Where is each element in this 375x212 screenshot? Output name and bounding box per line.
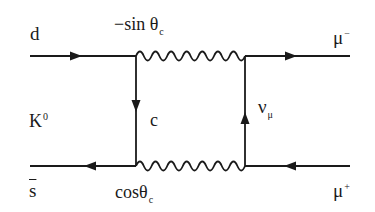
arrow-right-icon: [70, 52, 82, 61]
charm-text: c: [150, 110, 158, 130]
top-coupling-subscript: c: [159, 26, 163, 37]
label-kaon: K0: [29, 112, 48, 130]
label-neutrino: νμ: [258, 97, 273, 120]
bottom-coupling-text: cosθ: [115, 182, 148, 202]
label-bottom-coupling: cosθc: [115, 183, 153, 205]
mu-plus-text: μ: [333, 180, 343, 201]
feynman-diagram: d −sin θc μ− K0 c νμ s cosθc μ+: [0, 0, 375, 212]
mu-plus-superscript: +: [344, 181, 350, 192]
diagram-lines: [0, 0, 375, 212]
arrow-right-icon: [285, 52, 297, 61]
d-quark-text: d: [30, 23, 40, 44]
kaon-superscript: 0: [43, 111, 48, 122]
label-mu-plus: μ+: [333, 181, 350, 200]
kaon-text: K: [29, 111, 42, 131]
mu-minus-text: μ: [333, 27, 343, 48]
label-mu-minus: μ−: [333, 28, 350, 47]
neutrino-text: ν: [258, 96, 267, 117]
arrow-left-icon: [284, 162, 296, 171]
top-coupling-text: −sin θ: [114, 14, 158, 34]
label-top-coupling: −sin θc: [114, 15, 164, 37]
mu-minus-superscript: −: [344, 28, 350, 39]
arrow-down-icon: [132, 100, 141, 112]
arrow-left-icon: [84, 162, 96, 171]
label-charm: c: [150, 111, 158, 129]
label-sbar-quark: s: [29, 181, 36, 200]
label-d-quark: d: [30, 24, 40, 43]
arrow-up-icon: [241, 112, 250, 124]
w-boson-top-wavy: [136, 52, 245, 61]
w-boson-bottom-wavy: [136, 162, 245, 171]
bottom-coupling-subscript: c: [149, 194, 153, 205]
sbar-text: s: [29, 180, 36, 201]
neutrino-subscript: μ: [268, 109, 273, 120]
